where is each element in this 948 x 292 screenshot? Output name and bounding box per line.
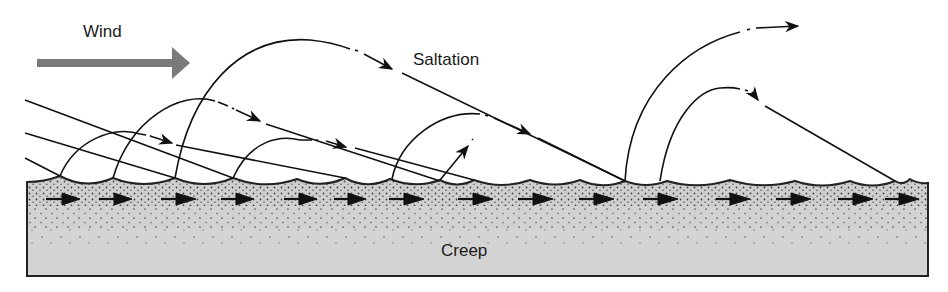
saltation-descent xyxy=(538,138,625,181)
saltation-hop-dash xyxy=(218,102,234,109)
saltation-descent xyxy=(266,124,440,181)
wind-label: Wind xyxy=(83,22,122,42)
saltation-hop-dash xyxy=(355,50,358,51)
ejected-grain-dot xyxy=(472,139,473,140)
saltation-hop-arrow xyxy=(236,110,260,121)
saltation-hop-arrow xyxy=(364,54,392,69)
saltation-hop-arrow xyxy=(756,26,798,28)
incoming-trajectory xyxy=(25,100,233,178)
saltation-hop-dash xyxy=(747,29,750,30)
saltation-hop-arrow xyxy=(752,92,758,100)
wind-arrow-icon xyxy=(37,47,190,79)
saltation-hop xyxy=(625,32,740,181)
saltation-descent xyxy=(176,145,345,178)
saltation-hop-dash xyxy=(140,134,151,136)
saltation-descent xyxy=(765,106,895,181)
saltation-hop-arrow xyxy=(150,136,172,143)
saltation-hop-arrow xyxy=(494,118,530,134)
saltation-hop-dash xyxy=(485,115,488,116)
saltation-hop-dash xyxy=(745,90,748,91)
incoming-trajectory xyxy=(25,158,60,176)
saltation-descent xyxy=(355,148,474,180)
saltation-label: Saltation xyxy=(413,50,479,70)
incoming-trajectory xyxy=(25,133,175,178)
saltation-hop xyxy=(660,88,740,181)
saltation-hop xyxy=(175,40,350,178)
creep-label: Creep xyxy=(441,241,487,261)
